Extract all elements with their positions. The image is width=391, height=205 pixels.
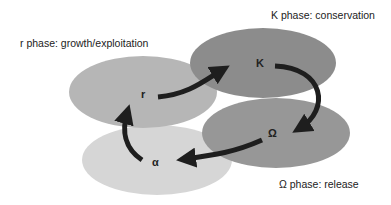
omega-node-label: Ω [268, 127, 277, 139]
k-phase-label: K phase: conservation [271, 9, 375, 21]
omega-phase-label: Ω phase: release [279, 178, 359, 190]
r-phase-label: r phase: growth/exploitation [20, 37, 148, 49]
k-node-label: K [256, 57, 264, 69]
r-node-label: r [141, 88, 145, 100]
adaptive-cycle-diagram [0, 0, 391, 205]
alpha-node-label: α [152, 156, 159, 168]
